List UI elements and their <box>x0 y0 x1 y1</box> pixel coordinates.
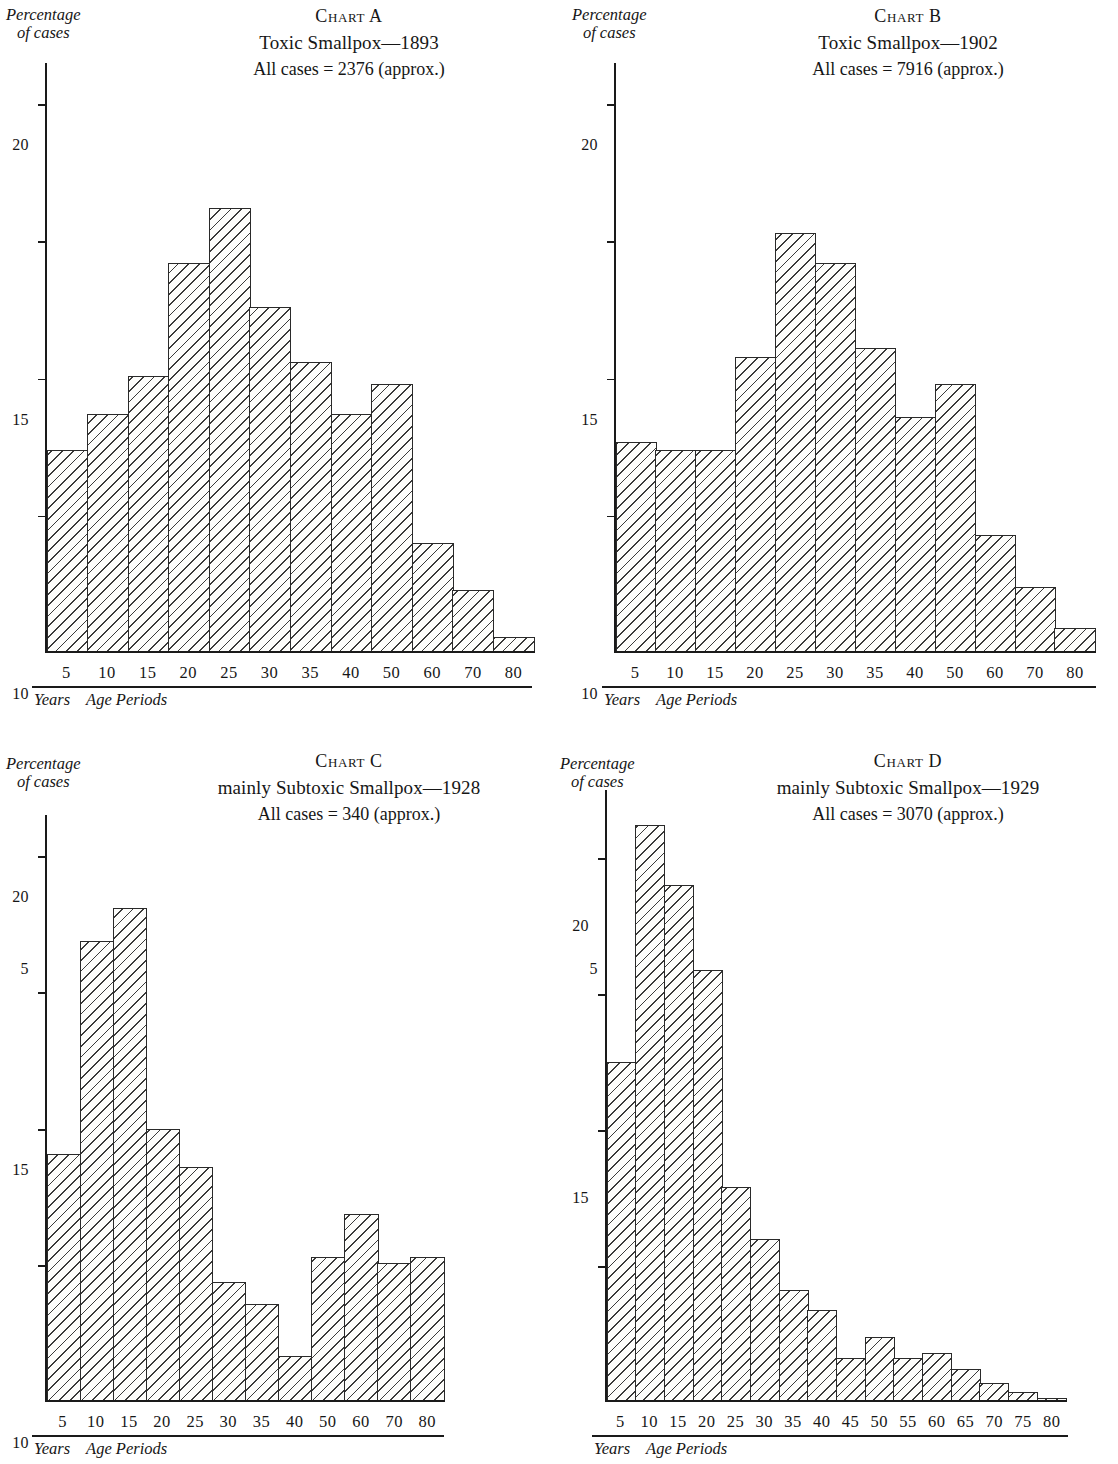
y-axis-tick-label: 20 <box>12 888 29 906</box>
chart-d-x-labels: 5101520253035404550556065707580 <box>606 1406 1068 1438</box>
chart-a-x-labels: 51015202530354050607080 <box>46 657 536 689</box>
x-axis-tick-label: 50 <box>935 663 975 683</box>
histogram-bar[interactable] <box>922 1353 952 1402</box>
histogram-bar[interactable] <box>212 1282 246 1402</box>
histogram-bar[interactable] <box>311 1257 345 1402</box>
histogram-bar[interactable] <box>865 1337 895 1402</box>
charts-grid: Chart A Toxic Smallpox—1893 All cases = … <box>0 0 1118 1464</box>
histogram-bar[interactable] <box>245 1304 279 1402</box>
histogram-bar[interactable] <box>693 970 723 1402</box>
chart-b-y-caption: Percentage of cases <box>572 6 647 43</box>
histogram-bar[interactable] <box>815 263 856 653</box>
x-axis-tick-label: 80 <box>411 1412 444 1432</box>
x-axis-tick-label: 15 <box>112 1412 145 1432</box>
chart-panel-c: Chart C mainly Subtoxic Smallpox—1928 Al… <box>0 745 558 1464</box>
x-axis-baseline <box>45 651 535 653</box>
x-axis-tick-label: 5 <box>606 1412 635 1432</box>
y-axis-tick-label: 10 <box>12 685 29 703</box>
histogram-bar[interactable] <box>1054 628 1095 653</box>
histogram-bar[interactable] <box>377 1263 411 1402</box>
histogram-bar[interactable] <box>836 1358 866 1402</box>
x-axis-tick-label: 40 <box>807 1412 836 1432</box>
chart-a-x-caption: YearsAge Periods <box>34 690 167 710</box>
histogram-bar[interactable] <box>179 1167 213 1402</box>
chart-a-x-rule <box>32 686 532 688</box>
x-axis-tick-label: 70 <box>1015 663 1055 683</box>
x-axis-baseline <box>614 651 1096 653</box>
histogram-bar[interactable] <box>695 450 736 653</box>
x-axis-tick-label: 5 <box>46 663 87 683</box>
y-axis-tick-label: 10 <box>12 1434 29 1452</box>
histogram-bar[interactable] <box>146 1129 180 1402</box>
histogram-bar[interactable] <box>721 1187 751 1402</box>
histogram-bar[interactable] <box>331 414 373 653</box>
histogram-bar[interactable] <box>951 1369 981 1402</box>
chart-b-subtitle: Toxic Smallpox—1902 <box>708 30 1108 55</box>
chart-b-x-caption: YearsAge Periods <box>604 690 737 710</box>
histogram-bar[interactable] <box>168 263 210 653</box>
x-caption-years: Years <box>594 1439 630 1458</box>
histogram-bar[interactable] <box>128 376 170 653</box>
x-axis-tick-label: 10 <box>79 1412 112 1432</box>
x-axis-baseline <box>45 1400 445 1402</box>
chart-b-x-labels: 51015202530354050607080 <box>615 657 1097 689</box>
histogram-bar[interactable] <box>664 885 694 1402</box>
histogram-bar[interactable] <box>452 590 494 653</box>
histogram-bar[interactable] <box>47 450 89 653</box>
histogram-bar[interactable] <box>975 535 1016 653</box>
chart-c-x-rule <box>32 1435 444 1437</box>
histogram-bar[interactable] <box>979 1383 1009 1402</box>
x-axis-tick-label: 70 <box>378 1412 411 1432</box>
histogram-bar[interactable] <box>935 384 976 653</box>
histogram-bar[interactable] <box>410 1257 444 1402</box>
histogram-bar[interactable] <box>775 233 816 653</box>
histogram-bar[interactable] <box>855 348 896 653</box>
histogram-bar[interactable] <box>113 908 147 1402</box>
histogram-bar[interactable] <box>807 1310 837 1402</box>
histogram-bar[interactable] <box>249 307 291 653</box>
histogram-bar[interactable] <box>1015 587 1056 653</box>
chart-b-x-rule <box>602 686 1096 688</box>
histogram-bar[interactable] <box>616 442 657 653</box>
histogram-bar[interactable] <box>895 417 936 653</box>
y-axis-tick-label: 15 <box>12 411 29 429</box>
x-axis-tick-label: 40 <box>278 1412 311 1432</box>
chart-d-x-caption: YearsAge Periods <box>594 1439 727 1459</box>
chart-c-label: Chart C <box>150 749 548 773</box>
x-axis-baseline <box>605 1400 1067 1402</box>
histogram-bar[interactable] <box>750 1239 780 1402</box>
histogram-bar[interactable] <box>607 1062 637 1402</box>
x-caption-years: Years <box>604 690 640 709</box>
x-axis-tick-label: 10 <box>655 663 695 683</box>
histogram-bar[interactable] <box>87 414 129 653</box>
x-axis-tick-label: 60 <box>975 663 1015 683</box>
histogram-bar[interactable] <box>47 1154 81 1402</box>
x-axis-tick-label: 30 <box>249 663 290 683</box>
x-axis-tick-label: 40 <box>895 663 935 683</box>
histogram-bar[interactable] <box>278 1356 312 1402</box>
x-axis-tick-label: 55 <box>894 1412 923 1432</box>
histogram-bar[interactable] <box>655 450 696 653</box>
x-axis-tick-label: 25 <box>209 663 250 683</box>
histogram-bar[interactable] <box>779 1290 809 1402</box>
histogram-bar[interactable] <box>735 357 776 653</box>
chart-b-label: Chart B <box>708 4 1108 28</box>
histogram-bar[interactable] <box>209 208 251 653</box>
y-caption-line1: Percentage <box>6 5 81 24</box>
y-caption-line2: of cases <box>572 24 647 42</box>
histogram-bar[interactable] <box>371 384 413 653</box>
histogram-bar[interactable] <box>80 941 114 1402</box>
x-axis-tick-label: 60 <box>412 663 453 683</box>
chart-c-x-labels: 51015202530354050607080 <box>46 1406 446 1438</box>
histogram-bar[interactable] <box>344 1214 378 1402</box>
x-axis-tick-label: 25 <box>775 663 815 683</box>
histogram-bar[interactable] <box>635 825 665 1402</box>
histogram-bar[interactable] <box>412 543 454 653</box>
chart-c-x-caption: YearsAge Periods <box>34 1439 167 1459</box>
chart-c-plot: 5101520 <box>45 815 445 1402</box>
x-axis-tick-label: 10 <box>635 1412 664 1432</box>
histogram-bar[interactable] <box>290 362 332 653</box>
x-axis-tick-label: 15 <box>127 663 168 683</box>
histogram-bar[interactable] <box>893 1358 923 1402</box>
x-axis-tick-label: 35 <box>855 663 895 683</box>
